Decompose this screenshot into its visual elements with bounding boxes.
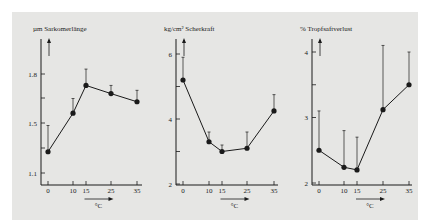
- x-unit-label: °C: [231, 202, 239, 210]
- data-point: [341, 165, 346, 170]
- x-tick-label: 35: [406, 187, 414, 195]
- y-tick-label: 6: [169, 51, 173, 59]
- data-point: [406, 82, 411, 87]
- x-tick-label: 15: [354, 187, 362, 195]
- data-point: [180, 77, 185, 82]
- data-point: [134, 99, 139, 104]
- x-tick-label: 35: [134, 187, 142, 195]
- data-point: [380, 107, 385, 112]
- x-tick-label: 10: [341, 187, 349, 195]
- y-tick-label: 4: [169, 116, 173, 124]
- y-tick-label: 1.8: [28, 71, 37, 79]
- charts-svg: 1.11.51.8010152535°C246010152535°C234010…: [12, 12, 418, 220]
- y-tick-label: 4: [305, 49, 309, 57]
- x-tick-label: 35: [271, 187, 279, 195]
- x-unit-label: °C: [366, 202, 374, 210]
- data-line: [183, 80, 274, 152]
- x-tick-label: 25: [108, 187, 116, 195]
- x-tick-label: 15: [219, 187, 227, 195]
- x-tick-label: 0: [317, 187, 321, 195]
- x-tick-label: 0: [46, 187, 50, 195]
- x-tick-label: 10: [70, 187, 78, 195]
- data-point: [206, 139, 211, 144]
- x-tick-label: 25: [244, 187, 252, 195]
- x-tick-label: 15: [83, 187, 91, 195]
- data-point: [83, 83, 88, 88]
- x-tick-label: 0: [181, 187, 185, 195]
- y-tick-label: 1.1: [28, 170, 37, 178]
- up-arrow-head-icon: [318, 38, 322, 43]
- data-point: [354, 167, 359, 172]
- right-arrow-head-icon: [380, 197, 385, 201]
- data-point: [271, 108, 276, 113]
- y-tick-label: 2: [169, 181, 173, 189]
- data-line: [48, 85, 137, 151]
- data-point: [244, 146, 249, 151]
- up-arrow-head-icon: [182, 38, 186, 43]
- y-tick-label: 3: [305, 114, 309, 122]
- figure-panel: µm Sarkomerlänge kg/cm² Scherkraft % Tro…: [12, 12, 418, 220]
- y-tick-label: 1.5: [28, 120, 37, 128]
- x-tick-label: 10: [206, 187, 214, 195]
- data-line: [319, 85, 409, 170]
- up-arrow-head-icon: [47, 38, 51, 43]
- data-point: [70, 111, 75, 116]
- right-arrow-head-icon: [109, 197, 114, 201]
- y-tick-label: 2: [305, 180, 309, 188]
- data-point: [45, 149, 50, 154]
- data-point: [219, 149, 224, 154]
- x-tick-label: 25: [380, 187, 388, 195]
- data-point: [108, 91, 113, 96]
- data-point: [316, 148, 321, 153]
- x-unit-label: °C: [95, 202, 103, 210]
- right-arrow-head-icon: [245, 197, 250, 201]
